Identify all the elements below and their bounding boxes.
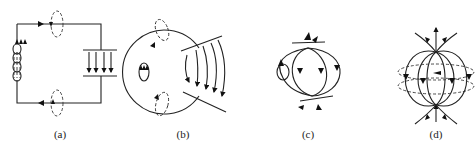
panel-c-folded-circuit bbox=[277, 32, 340, 110]
panel-label-d: (d) bbox=[421, 128, 451, 140]
em-wave-generation-figure: (a) (b) (c) (d) bbox=[0, 0, 476, 156]
panel-d-dipole-field bbox=[398, 28, 474, 124]
current-arrow-icon bbox=[38, 21, 44, 27]
inductor-coil-icon bbox=[13, 39, 27, 81]
panel-label-b: (b) bbox=[168, 128, 198, 140]
current-arrow-icon bbox=[38, 100, 44, 106]
panel-label-c: (c) bbox=[293, 128, 323, 140]
panel-label-a: (a) bbox=[45, 128, 75, 140]
panel-a-lc-circuit bbox=[13, 11, 117, 116]
capacitor-icon bbox=[83, 50, 117, 76]
panel-b-opened-circuit bbox=[123, 18, 226, 118]
